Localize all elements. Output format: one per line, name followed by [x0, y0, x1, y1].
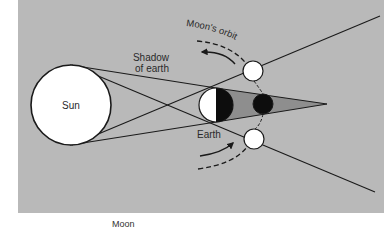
- shadow-of-earth-label-line2: of earth: [135, 63, 169, 74]
- moon-bottom: [244, 129, 264, 149]
- sun-label: Sun: [62, 100, 80, 111]
- earth-label: Earth: [197, 129, 221, 140]
- shadow-of-earth-label-line1: Shadow: [133, 52, 170, 63]
- figure-caption: Moon: [112, 219, 135, 229]
- moon-eclipsed: [253, 94, 273, 114]
- moon-top: [243, 61, 263, 81]
- lunar-eclipse-diagram: Sun Moon's orbit Shadow of earth Earth: [0, 0, 387, 230]
- earth: [199, 88, 233, 122]
